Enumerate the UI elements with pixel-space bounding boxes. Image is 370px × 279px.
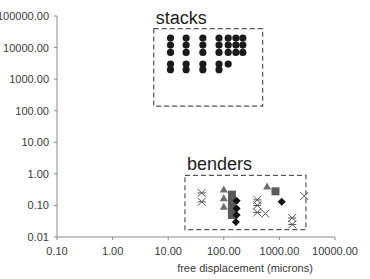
data-point xyxy=(199,41,206,48)
x-tick-label: 10.00 xyxy=(154,245,182,257)
data-point xyxy=(183,49,190,56)
data-point xyxy=(183,66,190,73)
data-point xyxy=(271,187,279,195)
data-point xyxy=(167,66,174,73)
stacks-label: stacks xyxy=(156,8,207,28)
data-point xyxy=(261,210,269,218)
stacks-series xyxy=(167,34,247,73)
data-point xyxy=(183,41,190,48)
data-point xyxy=(239,41,246,48)
data-point xyxy=(225,41,232,48)
data-point xyxy=(232,218,240,226)
benders-label: benders xyxy=(187,154,252,174)
scatter-chart: 0.010.101.0010.00100.001000.0010000.0010… xyxy=(0,0,370,279)
data-point xyxy=(225,34,232,41)
data-point xyxy=(215,41,222,48)
data-point xyxy=(288,220,296,228)
x-axis-ticks: 0.101.0010.00100.001000.0010000.00 xyxy=(46,237,358,257)
data-point xyxy=(225,49,232,56)
data-point xyxy=(199,49,206,56)
x-tick-label: 10000.00 xyxy=(312,245,358,257)
data-point xyxy=(220,185,228,192)
data-point xyxy=(220,203,228,210)
y-tick-label: 0.01 xyxy=(28,231,49,243)
data-point xyxy=(183,34,190,41)
y-tick-label: 1000.00 xyxy=(9,73,49,85)
benders-group-box xyxy=(185,175,306,229)
data-points xyxy=(167,34,308,228)
data-point xyxy=(198,198,206,206)
benders-asterisk-series xyxy=(198,189,297,229)
y-tick-label: 1.00 xyxy=(28,168,49,180)
data-point xyxy=(239,34,246,41)
benders-x-series xyxy=(261,192,308,218)
data-point xyxy=(300,192,308,200)
data-point xyxy=(167,34,174,41)
data-point xyxy=(215,34,222,41)
data-point xyxy=(253,201,261,209)
data-point xyxy=(167,41,174,48)
data-point xyxy=(228,191,236,199)
data-point xyxy=(278,198,286,206)
data-point xyxy=(263,182,271,189)
y-tick-label: 10.00 xyxy=(21,136,49,148)
data-point xyxy=(232,34,239,41)
data-point xyxy=(253,208,261,216)
benders-triangle-series xyxy=(220,182,271,209)
y-tick-label: 0.10 xyxy=(28,199,49,211)
data-point xyxy=(225,60,232,67)
data-point xyxy=(199,34,206,41)
data-point xyxy=(239,49,246,56)
x-tick-label: 1000.00 xyxy=(260,245,300,257)
data-point xyxy=(198,189,206,197)
x-tick-label: 100.00 xyxy=(207,245,241,257)
x-axis-title: free displacement (microns) xyxy=(177,262,313,274)
data-point xyxy=(288,214,296,222)
data-point xyxy=(215,49,222,56)
data-point xyxy=(199,66,206,73)
data-point xyxy=(167,49,174,56)
y-tick-label: 100000.00 xyxy=(0,10,49,22)
data-point xyxy=(232,41,239,48)
data-point xyxy=(232,49,239,56)
x-tick-label: 0.10 xyxy=(46,245,67,257)
axes xyxy=(57,16,335,237)
y-tick-label: 100.00 xyxy=(15,105,49,117)
data-point xyxy=(215,66,222,73)
y-axis-ticks: 0.010.101.0010.00100.001000.0010000.0010… xyxy=(0,10,57,243)
y-tick-label: 10000.00 xyxy=(3,42,49,54)
data-point xyxy=(220,194,228,201)
x-tick-label: 1.00 xyxy=(102,245,123,257)
